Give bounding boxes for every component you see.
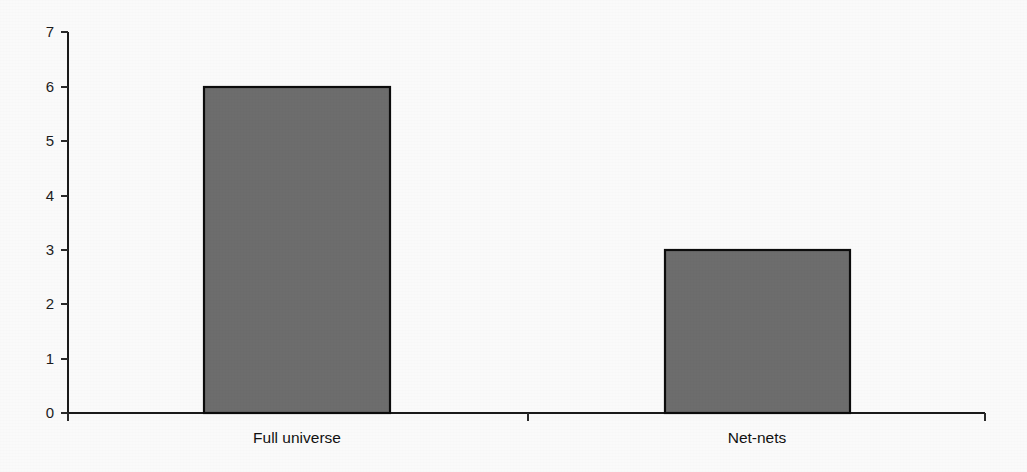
x-tick-marks: [68, 413, 985, 421]
bar-chart: 7 6 5 4 3 2 1 0 Full universe Net-nets: [0, 0, 1027, 472]
y-tick-label-4: 4: [46, 187, 54, 204]
x-category-label-net-nets: Net-nets: [728, 429, 787, 446]
y-tick-label-7: 7: [46, 23, 54, 40]
y-tick-label-5: 5: [46, 132, 54, 149]
y-tick-label-0: 0: [46, 404, 54, 421]
y-tick-label-3: 3: [46, 241, 54, 258]
y-tick-label-2: 2: [46, 295, 54, 312]
y-tick-label-1: 1: [46, 350, 54, 367]
chart-canvas: 7 6 5 4 3 2 1 0 Full universe Net-nets: [0, 0, 1027, 472]
x-category-label-full-universe: Full universe: [253, 429, 341, 446]
y-tick-label-6: 6: [46, 78, 54, 95]
y-tick-marks: [61, 32, 68, 413]
bar-net-nets: [665, 250, 850, 413]
bar-full-universe: [204, 87, 390, 413]
